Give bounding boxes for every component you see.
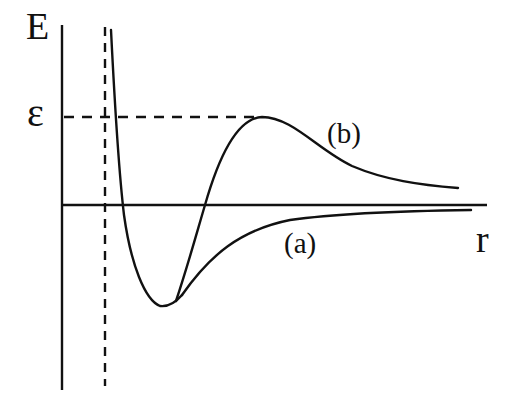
diagram-svg: [0, 0, 517, 408]
curve-b-label: (b): [327, 119, 361, 148]
r-axis-label: r: [476, 220, 489, 258]
energy-axis-label: E: [26, 7, 49, 45]
epsilon-label: ε: [27, 93, 44, 133]
potential-energy-diagram: E ε r (b) (a): [0, 0, 517, 408]
curve-a-label: (a): [284, 229, 316, 258]
repulsive-wall-curve: [111, 30, 182, 306]
curve-a: [182, 210, 471, 295]
curve-b: [176, 117, 458, 301]
